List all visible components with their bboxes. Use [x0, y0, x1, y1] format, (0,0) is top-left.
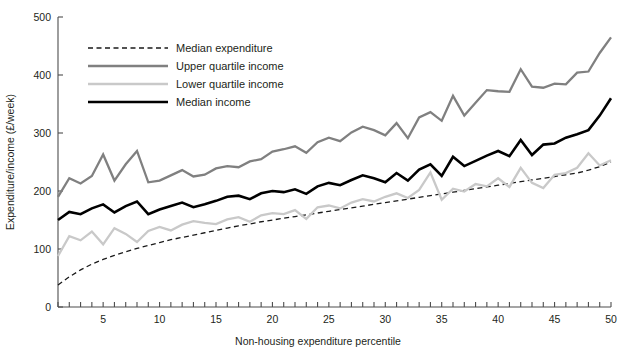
legend-label-lower-quartile-income: Lower quartile income [176, 78, 284, 90]
line-chart: 0100200300400500 5101520253035404550 Med… [0, 0, 635, 355]
x-axis-ticks: 5101520253035404550 [58, 302, 617, 325]
y-axis-ticks: 0100200300400500 [33, 11, 63, 313]
data-series-group [58, 37, 611, 285]
chart-container: 0100200300400500 5101520253035404550 Med… [0, 0, 635, 355]
x-axis: 5101520253035404550 [58, 302, 617, 325]
x-tick-label: 40 [492, 313, 504, 325]
y-tick-label: 400 [33, 69, 51, 81]
x-tick-label: 45 [549, 313, 561, 325]
y-tick-label: 300 [33, 127, 51, 139]
y-tick-label: 0 [45, 301, 51, 313]
x-axis-title: Non-housing expenditure percentile [235, 335, 401, 347]
x-tick-label: 25 [323, 313, 335, 325]
y-axis-title: Expenditure/income (£/week) [4, 94, 16, 230]
legend-label-median-income: Median income [176, 96, 251, 108]
x-tick-label: 10 [154, 313, 166, 325]
y-axis: 0100200300400500 [33, 11, 63, 313]
x-tick-label: 5 [100, 313, 106, 325]
x-tick-label: 30 [379, 313, 391, 325]
x-tick-label: 15 [210, 313, 222, 325]
series-line-upper-quartile-income [58, 37, 611, 197]
x-tick-label: 35 [436, 313, 448, 325]
chart-legend: Median expenditureUpper quartile incomeL… [88, 42, 284, 108]
y-tick-label: 200 [33, 185, 51, 197]
legend-label-upper-quartile-income: Upper quartile income [176, 60, 284, 72]
y-tick-label: 100 [33, 243, 51, 255]
legend-label-median-expenditure: Median expenditure [176, 42, 273, 54]
series-line-median-expenditure [58, 162, 611, 285]
x-tick-label: 20 [267, 313, 279, 325]
y-tick-label: 500 [33, 11, 51, 23]
x-tick-label: 50 [605, 313, 617, 325]
